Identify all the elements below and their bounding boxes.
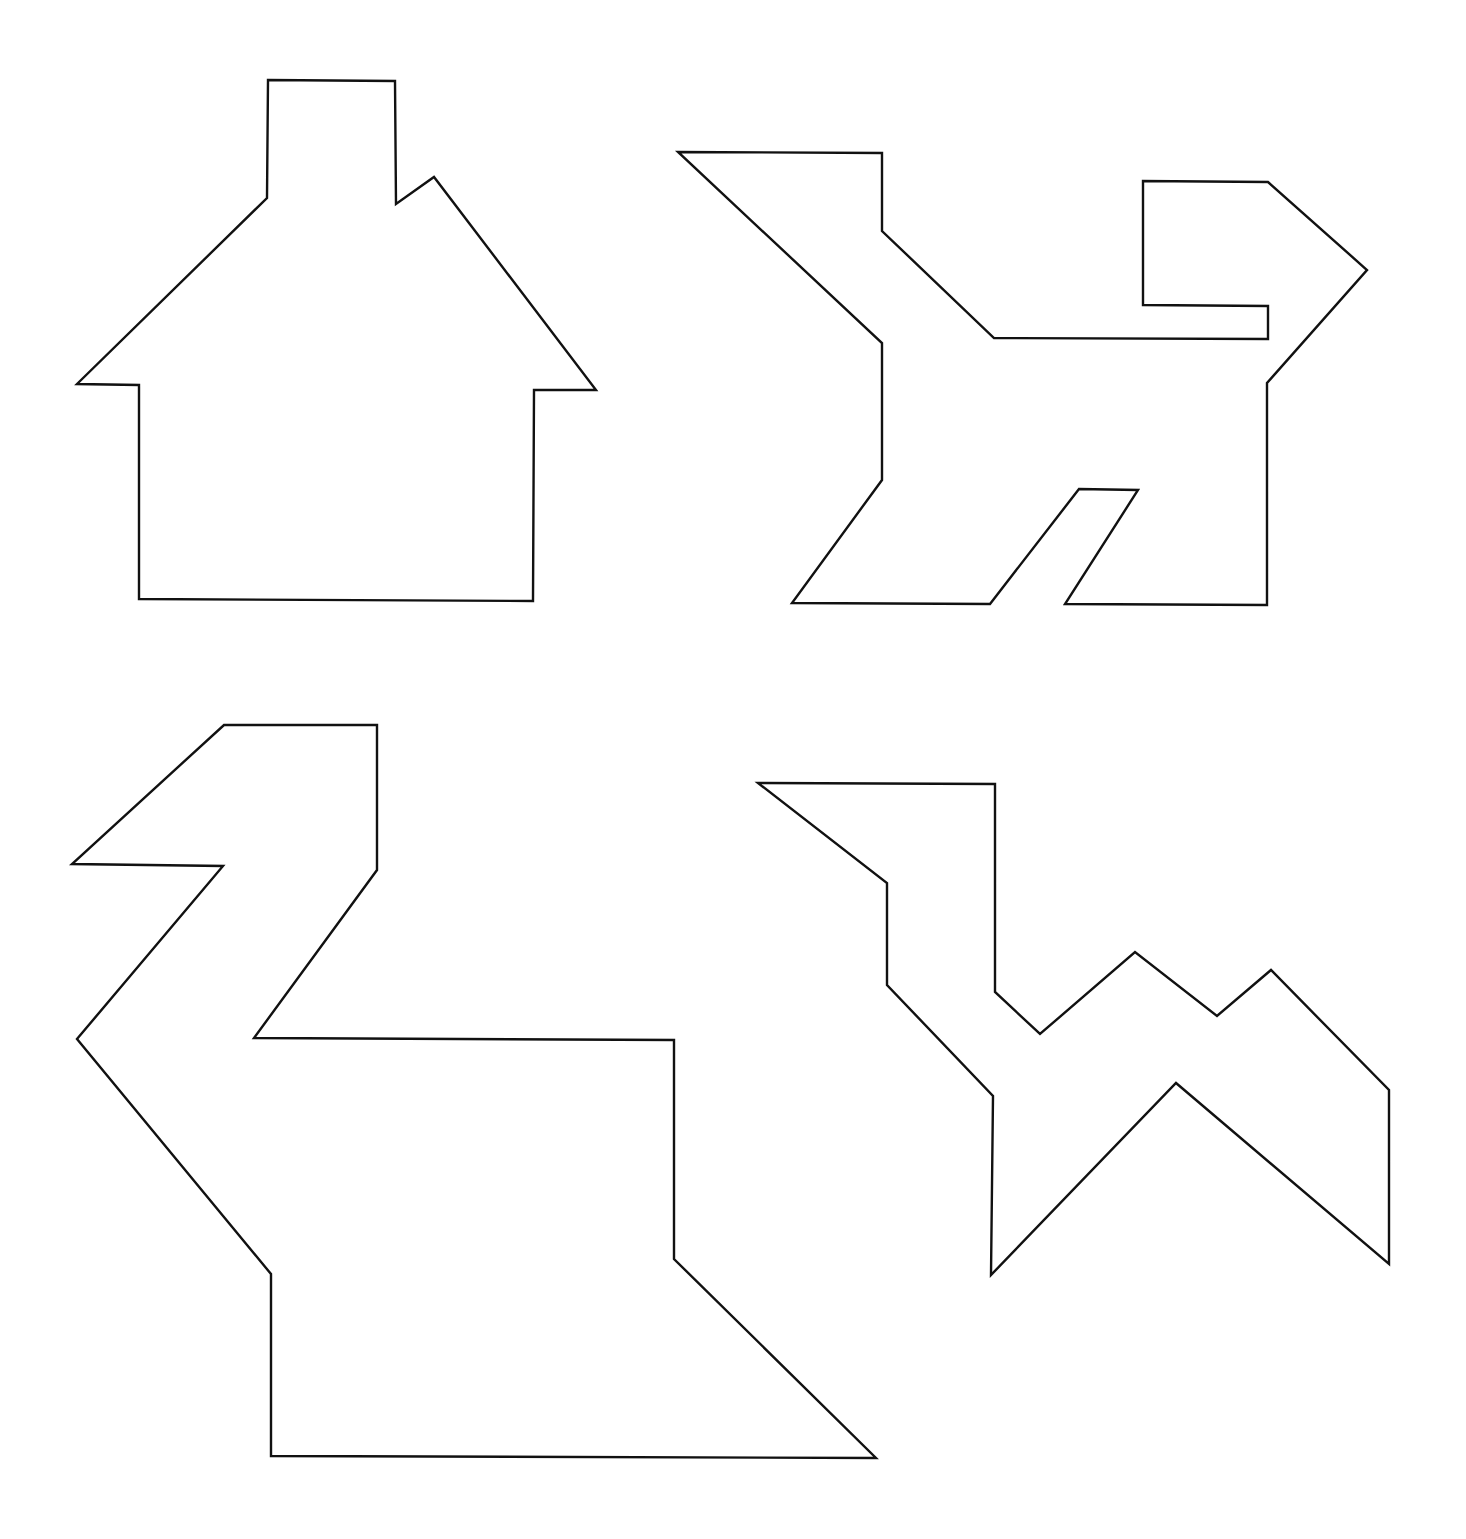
camel-outline bbox=[758, 783, 1389, 1275]
tangram-sheet bbox=[0, 0, 1466, 1539]
dog-outline bbox=[678, 152, 1367, 605]
house-outline bbox=[77, 80, 596, 601]
swan-outline bbox=[72, 725, 876, 1458]
